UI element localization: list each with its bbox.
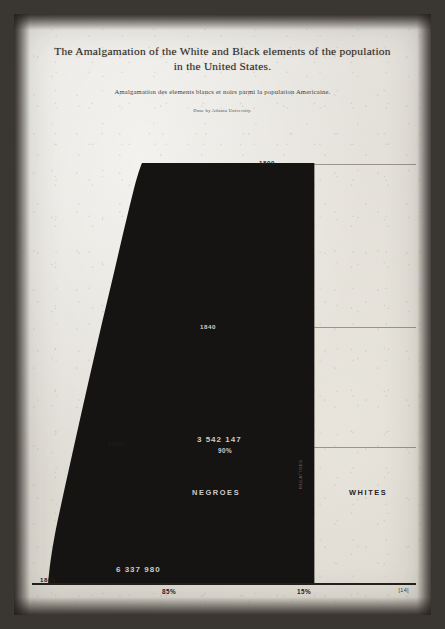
paper-sheet: The Amalgamation of the White and Black … — [14, 14, 431, 615]
percent-label-whites: 15% — [297, 588, 311, 595]
chart-area: 1800 1840 1860 1890 3 542 147 90% NEGROE… — [32, 147, 416, 585]
axis-baseline — [32, 583, 416, 585]
year-label-1860: 1860 — [108, 440, 124, 447]
gridrule-1800 — [314, 164, 416, 165]
credit-line: Done by Atlanta University. — [14, 108, 431, 113]
title-block: The Amalgamation of the White and Black … — [14, 44, 431, 113]
legend-label-whites: WHITES — [349, 488, 387, 497]
page-title-line-1: The Amalgamation of the White and Black … — [14, 44, 431, 59]
legend-label-negroes: NEGROES — [192, 488, 240, 497]
negroes-area-shape — [32, 147, 416, 585]
year-label-1840: 1840 — [200, 323, 216, 330]
year-label-1800: 1800 — [259, 159, 275, 166]
subtitle-french: Amalgamation des elements blancs et noir… — [14, 88, 431, 95]
middle-band-divider — [314, 163, 315, 585]
population-figure-1890: 6 337 980 — [116, 565, 161, 574]
gridrule-1840 — [314, 327, 416, 328]
percent-label-1860: 90% — [218, 447, 232, 454]
paper-edge-bottom — [14, 597, 431, 615]
page-title-line-2: in the United States. — [14, 59, 431, 74]
year-label-1890: 1890 — [40, 576, 56, 583]
plate: The Amalgamation of the White and Black … — [0, 0, 445, 629]
legend-label-middle-band: MULATTOES — [298, 460, 303, 489]
population-figure-1860: 3 542 147 — [197, 435, 242, 444]
paper-edge-top — [14, 14, 431, 30]
plate-number: [14] — [398, 587, 409, 593]
gridrule-1860 — [314, 447, 416, 448]
percent-label-negroes: 85% — [162, 588, 176, 595]
negroes-wedge-svg — [32, 147, 416, 585]
